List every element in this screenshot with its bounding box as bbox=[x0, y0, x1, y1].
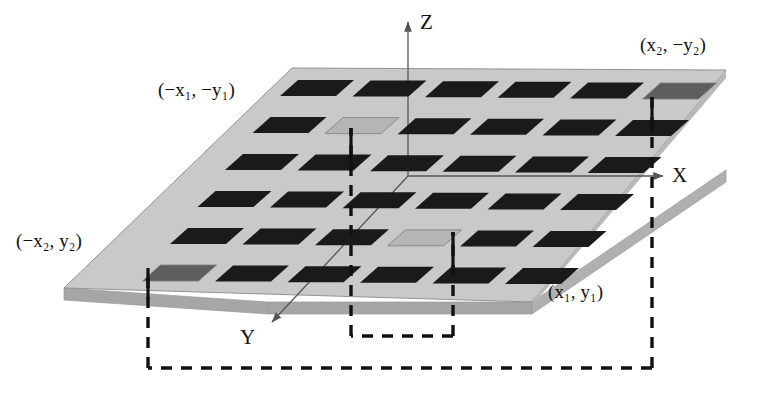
corner-label-neg-x1-neg-y1: (−x₁, −y₁) bbox=[158, 79, 235, 101]
figure-canvas: (−x₁, −y₁) (x₂, −y₂) (−x₂, y₂) (x₁, y₁) … bbox=[0, 0, 781, 398]
axis-label-x: X bbox=[672, 163, 687, 188]
corner-label-x2-neg-y2: (x₂, −y₂) bbox=[640, 34, 706, 56]
axis-label-y: Y bbox=[240, 325, 255, 350]
corner-label-x1-y1: (x₁, y₁) bbox=[548, 281, 603, 303]
diagram-svg bbox=[0, 0, 781, 398]
corner-label-neg-x2-y2: (−x₂, y₂) bbox=[16, 230, 82, 252]
axis-label-z: Z bbox=[420, 10, 433, 35]
substrate-side-face-front bbox=[268, 302, 532, 314]
